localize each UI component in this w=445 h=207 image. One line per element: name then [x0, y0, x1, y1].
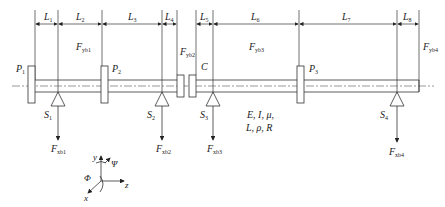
svg-text:Fyb1: Fyb1	[75, 41, 91, 53]
svg-text:Fxb3: Fxb3	[206, 143, 222, 155]
disk-p3	[297, 66, 304, 103]
svg-text:L3: L3	[127, 11, 137, 23]
svg-text:L6: L6	[250, 11, 260, 23]
svg-text:L4: L4	[164, 11, 174, 23]
svg-text:P3: P3	[308, 63, 318, 75]
disk-p2	[101, 66, 108, 103]
svg-text:Φ: Φ	[84, 173, 91, 183]
svg-text:S4: S4	[380, 109, 388, 121]
axis-labels: y Ψ z Φ x	[83, 152, 129, 203]
svg-text:Fyb4: Fyb4	[422, 41, 438, 53]
svg-text:L, ρ, R: L, ρ, R	[245, 122, 272, 133]
svg-text:L8: L8	[402, 11, 412, 23]
svg-text:Fxb1: Fxb1	[50, 143, 66, 155]
svg-text:Ψ: Ψ	[111, 159, 118, 169]
svg-text:E, I, μ,: E, I, μ,	[246, 109, 274, 120]
svg-text:z: z	[124, 180, 129, 190]
svg-text:S1: S1	[44, 109, 52, 121]
svg-text:Fxb4: Fxb4	[388, 146, 404, 158]
svg-text:Fyb3: Fyb3	[248, 41, 264, 53]
svg-text:S3: S3	[200, 109, 208, 121]
rotor-diagram: L1 L2 L3 L4 L5 L6 L7 L8	[0, 0, 445, 207]
svg-text:C: C	[201, 61, 208, 72]
svg-text:P2: P2	[111, 63, 121, 75]
svg-text:P1: P1	[15, 63, 25, 75]
svg-text:x: x	[83, 193, 88, 203]
svg-text:L7: L7	[341, 11, 351, 23]
component-labels: P1 P2 P3 C S1 S2 S3 S4 Fxb1 Fxb2 Fxb3 Fx…	[15, 41, 438, 158]
segment-labels: L1 L2 L3 L4 L5 L6 L7 L8	[43, 11, 412, 23]
disk-p1	[28, 66, 35, 103]
svg-text:y: y	[92, 152, 97, 162]
svg-text:L1: L1	[43, 11, 53, 23]
xb-force-arrows	[58, 106, 397, 142]
svg-text:Fxb2: Fxb2	[155, 143, 171, 155]
dimension-lines	[35, 10, 419, 100]
svg-text:L2: L2	[75, 11, 85, 23]
svg-text:L5: L5	[199, 11, 209, 23]
svg-text:S2: S2	[147, 109, 155, 121]
disks	[28, 66, 304, 103]
svg-text:Fyb2: Fyb2	[179, 46, 195, 58]
